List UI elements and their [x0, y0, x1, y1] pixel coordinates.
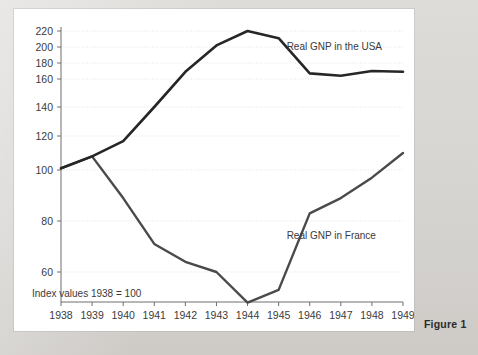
y-axis-tick-label: 180 — [35, 57, 53, 69]
x-axis-tick-label: 1948 — [360, 309, 384, 321]
index-note: Index values 1938 = 100 — [32, 288, 142, 299]
x-axis-tick-label: 1938 — [49, 309, 73, 321]
chart-plot-area: 2202001801601401201008060 19381939194019… — [14, 9, 414, 331]
y-axis-tick-label: 120 — [35, 130, 53, 142]
y-axis-tick-label: 160 — [35, 73, 53, 85]
y-axis-tick-label: 220 — [35, 25, 53, 37]
x-axis-tick-label: 1947 — [329, 309, 353, 321]
x-axis-tick-label: 1939 — [80, 309, 104, 321]
series-label-usa: Real GNP in the USA — [287, 41, 383, 52]
y-axis-tick-label: 100 — [35, 164, 53, 176]
x-axis-tick-label: 1945 — [267, 309, 291, 321]
figure-panel: 2202001801601401201008060 19381939194019… — [14, 9, 414, 331]
x-axis-ticks — [61, 302, 403, 306]
y-axis-ticks — [57, 31, 61, 272]
x-axis-tick-label: 1943 — [205, 309, 229, 321]
series-line-france — [61, 153, 403, 303]
x-axis-tick-label: 1942 — [174, 309, 198, 321]
series-label-france: Real GNP in France — [287, 230, 377, 241]
x-axis-tick-label: 1944 — [236, 309, 260, 321]
x-axis-tick-label: 1940 — [112, 309, 136, 321]
x-axis-tick-labels: 1938193919401941194219431944194519461947… — [49, 309, 414, 321]
y-axis-tick-labels: 2202001801601401201008060 — [35, 25, 53, 278]
y-axis-tick-label: 200 — [35, 41, 53, 53]
figure-caption: Figure 1 — [424, 318, 466, 330]
x-axis-tick-label: 1949 — [391, 309, 414, 321]
x-axis-tick-label: 1941 — [143, 309, 167, 321]
x-axis-tick-label: 1946 — [298, 309, 322, 321]
y-axis-tick-label: 140 — [35, 101, 53, 113]
line-chart: 2202001801601401201008060 19381939194019… — [14, 9, 414, 331]
y-axis-tick-label: 60 — [41, 266, 53, 278]
y-axis-tick-label: 80 — [41, 215, 53, 227]
